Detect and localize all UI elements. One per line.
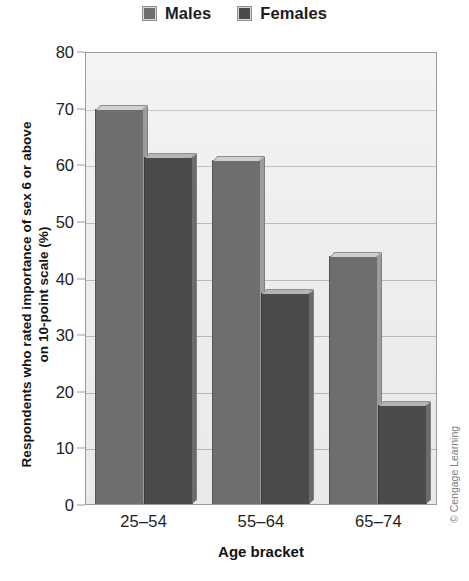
x-tick-label: 25–54 xyxy=(85,512,202,531)
y-tick-mark xyxy=(77,448,85,449)
y-tick-mark xyxy=(77,278,85,279)
y-tick-label: 30 xyxy=(56,326,74,345)
y-tick-mark xyxy=(77,108,85,109)
x-tick-label: 65–74 xyxy=(320,512,437,531)
legend-label: Females xyxy=(260,4,327,23)
legend-swatch-icon xyxy=(142,6,157,21)
chart-page: { "legend": { "position": "top-center", … xyxy=(0,0,469,581)
bar-females[interactable] xyxy=(261,293,310,504)
y-tick-mark xyxy=(77,221,85,222)
x-tick-label: 55–64 xyxy=(202,512,319,531)
y-tick-mark xyxy=(77,52,85,53)
bar-group-55-64 xyxy=(203,53,320,504)
y-tick-mark xyxy=(77,165,85,166)
y-tick-label: 0 xyxy=(65,496,74,515)
y-tick-mark xyxy=(77,391,85,392)
bar-top-face-icon xyxy=(262,289,314,294)
y-tick-label: 70 xyxy=(56,99,74,118)
legend-label: Males xyxy=(165,4,211,23)
y-axis-ticks: 80 70 60 50 40 30 20 10 0 xyxy=(0,0,85,581)
y-tick-mark xyxy=(77,505,85,506)
bar-group-25-54 xyxy=(86,53,203,504)
x-axis-title: Age bracket xyxy=(85,543,437,560)
y-tick-label: 80 xyxy=(56,43,74,62)
bar-top-face-icon xyxy=(379,401,431,406)
y-tick-mark xyxy=(77,335,85,336)
y-tick-label: 50 xyxy=(56,212,74,231)
bar-side-face-icon xyxy=(192,154,197,504)
y-tick-label: 60 xyxy=(56,156,74,175)
bar-males[interactable] xyxy=(95,109,144,504)
bar-top-face-icon xyxy=(330,252,382,257)
legend-entry-females: Females xyxy=(237,4,327,23)
bar-side-face-icon xyxy=(426,402,431,504)
legend-entry-males: Males xyxy=(142,4,211,23)
bar-females[interactable] xyxy=(144,157,193,504)
plot-area xyxy=(85,52,437,505)
bars-layer xyxy=(86,53,436,504)
bar-top-face-icon xyxy=(145,153,197,158)
bar-top-face-icon xyxy=(213,156,265,161)
copyright-credit: © Cengage Learning xyxy=(448,363,460,523)
bar-males[interactable] xyxy=(212,160,261,504)
bar-females[interactable] xyxy=(378,405,427,504)
bar-group-65-74 xyxy=(319,53,436,504)
bar-top-face-icon xyxy=(96,105,148,110)
bar-males[interactable] xyxy=(329,256,378,504)
y-tick-label: 20 xyxy=(56,382,74,401)
y-tick-label: 10 xyxy=(56,439,74,458)
y-tick-label: 40 xyxy=(56,269,74,288)
legend-swatch-icon xyxy=(237,6,252,21)
x-axis-ticks: 25–54 55–64 65–74 xyxy=(85,512,437,531)
bar-side-face-icon xyxy=(309,289,314,504)
